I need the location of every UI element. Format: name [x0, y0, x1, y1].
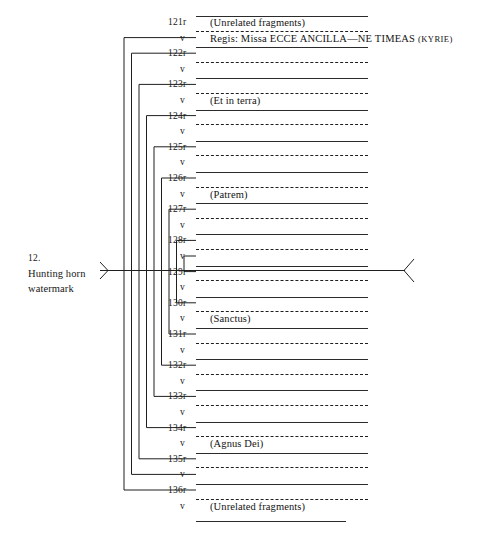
folio-label-126v: v: [180, 189, 194, 199]
folio-label-133r: 133r: [168, 391, 194, 401]
folio-label-124r: 124r: [168, 111, 194, 121]
folio-label-128v: v: [180, 251, 194, 261]
folio-rule-solid: [196, 484, 368, 485]
folio-label-135r: 135r: [168, 454, 194, 464]
folio-label-121r: 121r: [168, 17, 194, 27]
folio-label-135v: v: [180, 469, 194, 479]
folio-title-130v: (Sanctus): [210, 313, 251, 324]
folio-rule-solid: [196, 359, 368, 360]
folio-rule-dashed: [196, 499, 368, 500]
folio-rule-dashed: [196, 62, 368, 63]
folio-title-134v: (Agnus Dei): [210, 438, 263, 449]
folio-rule-solid: [196, 390, 368, 391]
folio-title-126v: (Patrem): [210, 189, 248, 200]
folio-rule-dashed: [196, 405, 368, 406]
folio-label-124v: v: [180, 126, 194, 136]
folio-label-136r: 136r: [168, 485, 194, 495]
figure-caption-line-1: Hunting horn: [28, 268, 86, 279]
folio-rule-solid: [196, 203, 368, 204]
folio-label-136v: v: [180, 501, 194, 511]
folio-rule-dashed: [196, 218, 368, 219]
folio-rule-solid: [196, 328, 368, 329]
folio-label-128r: 128r: [168, 235, 194, 245]
folio-label-122v: v: [180, 64, 194, 74]
folio-label-122r: 122r: [168, 48, 194, 58]
folio-rule-solid: [196, 141, 368, 142]
folio-rule-solid: [196, 47, 368, 48]
folio-label-129r: 129r: [168, 267, 194, 277]
folio-rule-dashed: [196, 311, 368, 312]
folio-label-132r: 132r: [168, 360, 194, 370]
folio-title-123v: (Et in terra): [210, 95, 260, 106]
folio-rule-solid: [196, 78, 368, 79]
folio-label-127r: 127r: [168, 204, 194, 214]
folio-label-125r: 125r: [168, 142, 194, 152]
folio-rule-solid: [196, 453, 368, 454]
folio-rule-dashed: [196, 467, 368, 468]
folio-rule-solid: [196, 110, 368, 111]
folio-label-133v: v: [180, 407, 194, 417]
folio-rule-dashed: [196, 343, 368, 344]
folio-rule-dashed: [196, 124, 368, 125]
folio-label-132v: v: [180, 376, 194, 386]
folio-rule-solid: [196, 297, 368, 298]
folio-label-126r: 126r: [168, 173, 194, 183]
figure-number: 12.: [28, 251, 116, 266]
folio-rule-solid: [196, 266, 368, 267]
folio-rule-dashed: [196, 187, 368, 188]
folio-rule-solid: [196, 172, 368, 173]
folio-label-123v: v: [180, 95, 194, 105]
folio-label-134v: v: [180, 438, 194, 448]
folio-label-129v: v: [180, 282, 194, 292]
folio-rule-dashed: [196, 280, 368, 281]
folio-label-131v: v: [180, 345, 194, 355]
folio-title-121v: Regis: Missa ECCE ANCILLA—NE TIMEAS (KYR…: [210, 33, 453, 44]
folio-label-121v: v: [180, 33, 194, 43]
folio-rule-dashed: [196, 93, 368, 94]
folio-title-121r: (Unrelated fragments): [210, 17, 305, 28]
folio-rule-solid: [196, 422, 368, 423]
folio-title-136v: (Unrelated fragments): [210, 501, 305, 512]
folio-label-134r: 134r: [168, 423, 194, 433]
figure-caption-line-2: watermark: [28, 283, 74, 294]
closing-rule: [196, 521, 346, 522]
folio-rule-dashed: [196, 436, 368, 437]
folio-rule-dashed: [196, 155, 368, 156]
folio-rule-dashed: [196, 31, 368, 32]
folio-rule-dashed: [196, 374, 368, 375]
folio-label-125v: v: [180, 157, 194, 167]
folio-label-123r: 123r: [168, 79, 194, 89]
folio-rule-dashed: [196, 249, 368, 250]
folio-rule-solid: [196, 234, 368, 235]
folio-label-130r: 130r: [168, 298, 194, 308]
folio-label-130v: v: [180, 313, 194, 323]
folio-label-127v: v: [180, 220, 194, 230]
collation-diagram: 12. Hunting horn watermark 121r(Unrelate…: [0, 0, 480, 537]
folio-label-131r: 131r: [168, 329, 194, 339]
figure-caption: 12. Hunting horn watermark: [28, 251, 116, 296]
watermark-right-arrow-icon: [404, 259, 414, 282]
